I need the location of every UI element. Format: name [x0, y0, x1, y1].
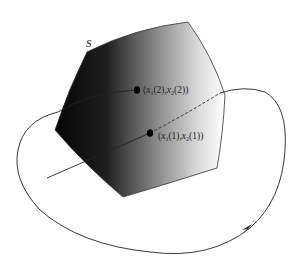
poincare-section-diagram: S (x1(2),x2(2)) (x1(1),x2(1)) [0, 0, 298, 269]
point-2-marker [134, 86, 140, 94]
surface-s [55, 22, 225, 197]
point-1-marker [147, 129, 153, 137]
point-2-label: (x1(2),x2(2)) [143, 85, 188, 96]
arrow-head-icon [242, 224, 252, 233]
point-1-label: (x1(1),x2(1)) [158, 131, 203, 142]
surface-label: S [86, 37, 92, 49]
